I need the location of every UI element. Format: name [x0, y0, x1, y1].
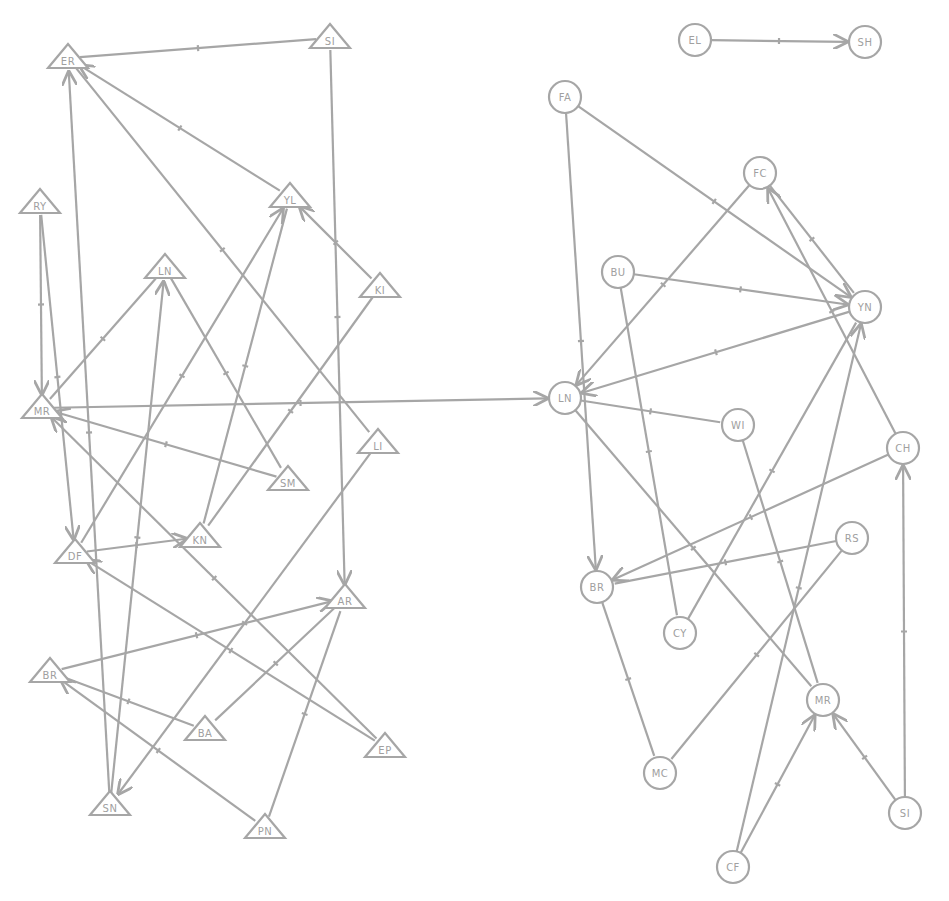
circle-node-fa: FA [549, 81, 581, 113]
edge-tick-mark [625, 678, 631, 680]
edge-tick-mark [777, 561, 783, 563]
node-label: KI [375, 285, 386, 296]
nodes-layer: ERSIRYYLLNKIMRSMLIDFKNARBRBAEPSNPNELSHFA… [20, 24, 921, 883]
edge-tick-mark [134, 537, 140, 538]
triangle-node-li: LI [358, 429, 398, 453]
node-label: SN [103, 803, 118, 814]
triangle-node-si: SI [310, 24, 350, 48]
triangle-node-ki: KI [360, 273, 400, 297]
edges-layer [38, 38, 907, 853]
node-label: SM [280, 478, 296, 489]
triangle-node-ba: BA [185, 716, 225, 740]
triangle-node-mr: MR [22, 394, 62, 418]
edge-tick-mark [715, 349, 717, 355]
edge-tick-mark [302, 713, 308, 715]
edge-tick-mark [242, 365, 248, 367]
triangle-node-br: BR [30, 658, 70, 682]
edge-tick-mark [829, 310, 834, 313]
circle-node-ln: LN [549, 382, 581, 414]
edge-tick-mark [136, 542, 137, 548]
circle-node-cy: CY [664, 617, 696, 649]
circle-node-mc: MC [644, 757, 676, 789]
circle-node-br: BR [581, 571, 613, 603]
node-label: RS [845, 533, 859, 544]
circle-node-bu: BU [602, 256, 634, 288]
node-label: EL [689, 35, 702, 46]
circle-node-yn: YN [849, 291, 881, 323]
node-label: EP [378, 745, 391, 756]
node-label: AR [338, 596, 353, 607]
triangle-node-ln: LN [145, 254, 185, 278]
triangle-node-sm: SM [268, 466, 308, 490]
node-label: KN [192, 535, 207, 546]
edge-tick-mark [725, 559, 726, 565]
edge-tick-mark [775, 783, 780, 786]
node-label: MR [815, 695, 832, 706]
node-label: FA [559, 92, 572, 103]
node-label: LN [158, 266, 172, 277]
node-label: LN [558, 393, 572, 404]
edge-tick-mark [740, 286, 741, 292]
node-label: BR [590, 582, 605, 593]
node-label: BR [43, 670, 58, 681]
node-label: MC [652, 768, 669, 779]
node-label: SI [325, 36, 335, 47]
circle-node-ch: CH [887, 432, 919, 464]
node-label: PN [258, 826, 273, 837]
node-label: DF [68, 551, 82, 562]
triangle-node-ep: EP [365, 733, 405, 757]
node-label: CH [895, 443, 911, 454]
edge-tick-mark [750, 514, 752, 519]
node-label: SH [858, 37, 873, 48]
node-label: MR [34, 406, 51, 417]
node-label: BA [198, 728, 213, 739]
node-label: YN [857, 302, 873, 313]
node-label: CY [673, 628, 687, 639]
node-label: BU [610, 267, 625, 278]
circle-node-mr: MR [807, 684, 839, 716]
circle-node-cf: CF [717, 851, 749, 883]
node-label: CF [726, 862, 740, 873]
triangle-node-ar: AR [325, 584, 365, 608]
triangle-node-ry: RY [20, 189, 60, 213]
edge-tick-mark [796, 587, 802, 588]
edge-tick-mark [650, 408, 651, 414]
circle-node-si: SI [889, 797, 921, 829]
node-label: RY [33, 201, 47, 212]
circle-node-wi: WI [722, 409, 754, 441]
edge-tick-mark [165, 441, 167, 447]
node-label: YL [283, 195, 297, 206]
circle-node-fc: FC [744, 157, 776, 189]
triangle-node-sn: SN [90, 791, 130, 815]
circle-node-rs: RS [836, 522, 868, 554]
edge-tick-mark [54, 377, 60, 378]
node-label: ER [61, 56, 75, 67]
node-label: LI [373, 441, 383, 452]
triangle-node-yl: YL [270, 183, 310, 207]
circle-node-el: EL [679, 24, 711, 56]
edge-tick-mark [196, 632, 197, 638]
edge-tick-mark [646, 451, 652, 452]
sociogram-diagram: ERSIRYYLLNKIMRSMLIDFKNARBRBAEPSNPNELSHFA… [0, 0, 949, 901]
edge-tick-mark [127, 699, 129, 705]
node-label: SI [900, 808, 910, 819]
node-label: FC [753, 168, 767, 179]
triangle-node-kn: KN [180, 523, 220, 547]
circle-node-sh: SH [849, 26, 881, 58]
node-label: WI [731, 420, 745, 431]
